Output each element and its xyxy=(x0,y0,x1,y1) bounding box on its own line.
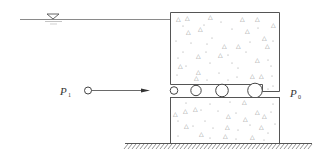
svg-text:△: △ xyxy=(265,42,270,49)
svg-text:△: △ xyxy=(208,13,213,20)
p1-point: P 1 xyxy=(59,85,150,98)
svg-text:△: △ xyxy=(184,122,189,129)
svg-text:△: △ xyxy=(225,123,230,130)
svg-text:△: △ xyxy=(255,108,260,115)
svg-text:△: △ xyxy=(173,110,178,117)
ground-hatching-icon xyxy=(124,144,312,150)
roller-4 xyxy=(248,83,263,98)
p0-point: P 0 xyxy=(289,87,301,100)
svg-text:△: △ xyxy=(250,72,255,79)
svg-text:△: △ xyxy=(245,27,250,34)
roller-2 xyxy=(191,85,201,95)
svg-text:△: △ xyxy=(259,72,264,79)
water-level xyxy=(20,14,170,24)
svg-text:△: △ xyxy=(255,56,260,63)
svg-text:△: △ xyxy=(194,74,199,81)
svg-text:△: △ xyxy=(262,34,267,41)
svg-text:△: △ xyxy=(223,132,228,139)
svg-text:△: △ xyxy=(185,14,190,21)
svg-text:△: △ xyxy=(240,15,245,22)
p1-point-circle-icon xyxy=(85,87,92,94)
arrow-right-icon xyxy=(141,89,150,93)
svg-text:△: △ xyxy=(222,42,227,49)
svg-text:△: △ xyxy=(183,107,188,114)
svg-text:△: △ xyxy=(176,15,181,22)
p0-subscript: 0 xyxy=(298,94,301,100)
svg-text:△: △ xyxy=(196,52,201,59)
svg-text:△: △ xyxy=(242,98,247,105)
svg-text:△: △ xyxy=(250,133,255,140)
p0-label: P xyxy=(289,87,297,99)
svg-text:△: △ xyxy=(226,112,231,119)
svg-text:△: △ xyxy=(199,130,204,137)
roller-3 xyxy=(216,84,229,97)
svg-text:△: △ xyxy=(259,123,264,130)
upper-block: △△△ △△△ △△△ △△△ △△△ △△△ △△△ xyxy=(171,13,280,92)
svg-text:△: △ xyxy=(243,115,248,122)
lower-block: △△△ △△△ △△△ △△△ △△ xyxy=(171,98,280,144)
svg-text:△: △ xyxy=(218,51,223,58)
roller-1 xyxy=(170,87,178,95)
svg-text:△: △ xyxy=(236,42,241,49)
p1-label: P xyxy=(59,85,67,97)
svg-text:△: △ xyxy=(193,105,198,112)
svg-text:△: △ xyxy=(178,62,183,69)
rollers xyxy=(170,83,262,98)
svg-text:△: △ xyxy=(255,15,260,22)
svg-text:△: △ xyxy=(271,21,276,28)
svg-text:△: △ xyxy=(262,112,267,119)
svg-text:△: △ xyxy=(186,28,191,35)
diagram-canvas: △△△ △△△ △△△ △△△ △△△ △△△ △△△ △△△ xyxy=(0,0,328,161)
p1-subscript: 1 xyxy=(68,92,71,98)
svg-text:△: △ xyxy=(198,25,203,32)
